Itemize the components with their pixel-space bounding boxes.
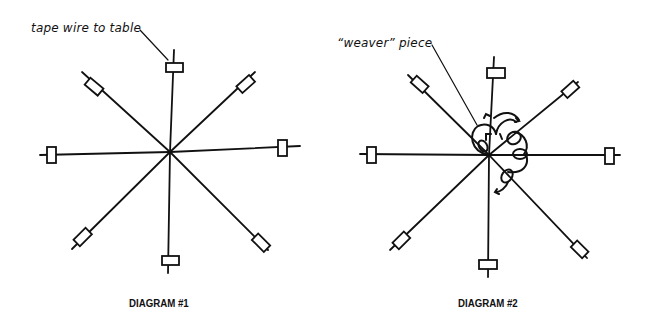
diagram-1-tape-pieces [47,63,287,265]
annotation-tape-wire: tape wire to table [31,21,141,35]
annotation-weaver-piece: “weaver” piece [337,36,432,50]
diagram-2-leader-line [432,45,477,125]
diagram-2-caption: DIAGRAM #2 [458,297,518,309]
diagram-2-tape-pieces [367,68,614,269]
diagram-1-caption: DIAGRAM #1 [129,297,189,309]
weaver-path [472,113,527,194]
diagram-1-leader-line [140,30,168,60]
diagrams-canvas [0,0,652,331]
